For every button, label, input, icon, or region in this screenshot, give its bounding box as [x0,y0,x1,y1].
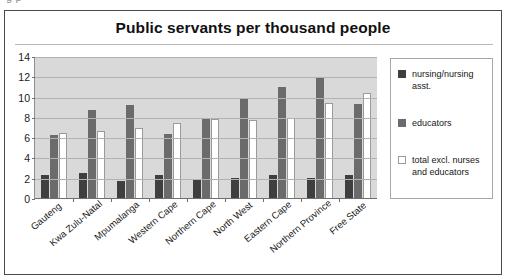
legend-swatch-icon-total [398,156,406,164]
y-axis-tick-label: 10 [18,92,30,104]
legend-item-educators: educators [398,117,486,129]
legend-item-total: total excl. nurses and educators [398,154,486,178]
bar-group [225,57,263,199]
gridline [35,158,377,159]
bar-group [73,57,111,199]
legend-label-educators: educators [412,117,452,129]
clipped-caption-text: g p [6,0,476,5]
bar-total [59,133,67,199]
bar-total [249,120,257,199]
y-axis-tick-label: 14 [18,51,30,63]
bar-groups [35,57,377,199]
y-axis-tick-mark [32,57,35,58]
bar-group [35,57,73,199]
bar-nursing [193,180,201,199]
bar-educators [278,87,286,199]
chart-legend: nursing/nursing asst. educators total ex… [390,58,493,199]
legend-label-total: total excl. nurses and educators [412,154,486,178]
y-axis-tick-label: 2 [24,173,30,185]
y-axis-tick-label: 4 [24,152,30,164]
x-axis-label-cell: Free State [338,201,376,271]
bar-total [173,123,181,199]
bar-nursing [79,173,87,199]
gridline [35,57,377,58]
bar-nursing [231,178,239,199]
y-axis-tick-mark [32,138,35,139]
bar-group [301,57,339,199]
y-axis-tick-mark [32,118,35,119]
x-axis-label-cell: Northern Province [300,201,338,271]
bar-total [363,93,371,200]
title-divider [15,44,493,45]
bar-nursing [307,178,315,199]
y-axis-tick-label: 6 [24,132,30,144]
bar-nursing [117,181,125,199]
legend-swatch-icon-educators [398,119,406,127]
bar-group [339,57,377,199]
bar-educators [164,134,172,199]
y-axis-tick-mark [32,77,35,78]
bar-total [97,131,105,199]
legend-item-nursing: nursing/nursing asst. [398,68,486,92]
bar-educators [50,135,58,199]
gridline [35,77,377,78]
y-axis-tick-mark [32,98,35,99]
x-axis-label: Gauteng [28,200,63,232]
y-axis-tick-mark [32,199,35,200]
bar-group [111,57,149,199]
plot-area: 02468101214 [34,57,377,199]
x-axis-labels: GautengKwa Zulu-NatalMpumalangaWestern C… [34,201,376,271]
gridline [35,179,377,180]
gridline [35,138,377,139]
chart-figure-frame: Public servants per thousand people 0246… [4,10,502,275]
bar-group [263,57,301,199]
bar-group [149,57,187,199]
y-axis-tick-label: 8 [24,112,30,124]
bar-educators [88,110,96,199]
legend-swatch-icon-nursing [398,70,406,78]
y-axis-tick-label: 12 [18,71,30,83]
y-axis-tick-mark [32,179,35,180]
y-axis-tick-label: 0 [24,193,30,205]
bar-educators [240,98,248,199]
gridline [35,98,377,99]
chart-title: Public servants per thousand people [5,19,501,37]
gridline [35,118,377,119]
legend-label-nursing: nursing/nursing asst. [412,68,486,92]
y-axis-tick-mark [32,158,35,159]
bar-group [187,57,225,199]
